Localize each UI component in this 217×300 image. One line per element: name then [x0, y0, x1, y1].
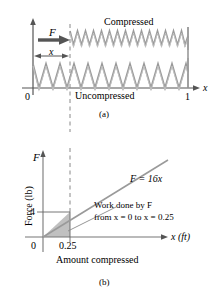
work-annotation-line-2: from x = 0 to x = 0.25 — [94, 213, 174, 222]
panel-b-tick-x-025: 0.25 — [59, 241, 77, 251]
panel-a-caption: (a) — [99, 110, 109, 119]
panel-b-tick-y-4: 4 — [30, 207, 35, 217]
work-area-shading — [43, 212, 70, 237]
force-symbol-label: F — [49, 27, 56, 38]
panel-b-caption: (b) — [99, 278, 110, 287]
compressed-label: Compressed — [104, 17, 153, 27]
compression-distance-symbol-label: x — [49, 47, 53, 57]
panel-b-x-axis-arrow — [161, 234, 168, 239]
panel-b-tick-zero: 0 — [31, 241, 36, 251]
panel-b-x-axis-label: x (ft) — [171, 232, 190, 242]
spring-work-figure: Compressed Uncompressed F x x 0 1 (a) F … — [0, 0, 217, 300]
panel-a-left-wall-arrow — [30, 18, 36, 25]
force-line-equation-label: F = 16x — [130, 174, 162, 184]
panel-b-y-axis-arrow — [40, 150, 45, 157]
panel-a-x-axis-arrow — [193, 85, 200, 90]
panel-b-y-axis-symbol: F — [33, 152, 40, 163]
panel-a-tick-zero: 0 — [25, 92, 30, 102]
work-annotation-line-1: Work done by F — [94, 201, 152, 210]
uncompressed-label: Uncompressed — [75, 91, 134, 101]
panel-b-x-axis-title: Amount compressed — [56, 255, 139, 265]
panel-a-tick-one: 1 — [185, 92, 190, 102]
force-line — [43, 160, 168, 237]
panel-a-x-axis-label: x — [203, 83, 207, 93]
